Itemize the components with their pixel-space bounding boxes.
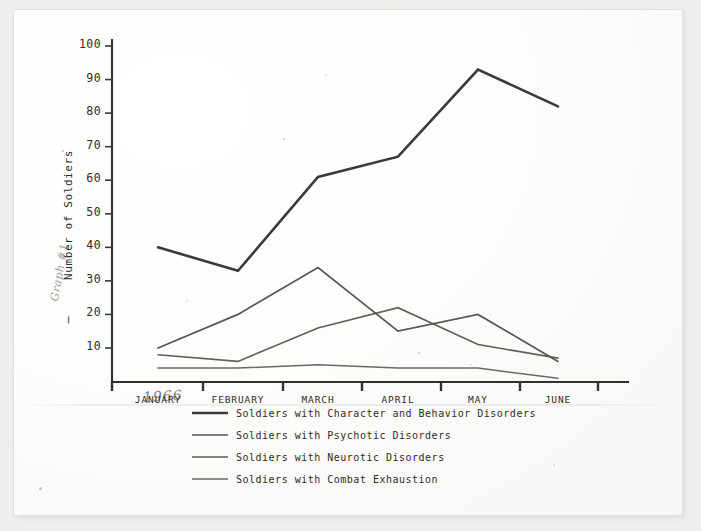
line-chart: 102030405060708090100 Number of Soldiers…	[0, 0, 701, 531]
svg-text:—: —	[61, 316, 75, 324]
svg-text:Soldiers with Character and Be: Soldiers with Character and Behavior Dis…	[236, 408, 536, 419]
chart-axes	[112, 40, 628, 382]
svg-text:Soldiers with Psychotic Disord: Soldiers with Psychotic Disorders	[236, 430, 451, 441]
svg-text:10: 10	[86, 339, 101, 353]
svg-text:70: 70	[86, 138, 101, 152]
svg-text:60: 60	[86, 171, 101, 185]
svg-text:50: 50	[86, 205, 101, 219]
x-tick-labels: JANUARYFEBRUARYMARCHAPRILMAYJUNE	[135, 394, 571, 405]
svg-text:Soldiers with Neurotic Disorde: Soldiers with Neurotic Disorders	[236, 452, 445, 463]
y-axis-title: Number of Soldiers—	[61, 150, 75, 324]
svg-text:APRIL: APRIL	[381, 394, 414, 405]
svg-text:20: 20	[86, 305, 101, 319]
svg-text:JUNE: JUNE	[545, 394, 571, 405]
x-axis-ticks	[112, 382, 598, 391]
svg-text:MARCH: MARCH	[301, 394, 334, 405]
svg-text:FEBRUARY: FEBRUARY	[212, 394, 265, 405]
svg-text:80: 80	[86, 104, 101, 118]
chart-legend: Soldiers with Character and Behavior Dis…	[192, 408, 536, 485]
svg-text:Soldiers with Combat Exhaustio: Soldiers with Combat Exhaustion	[236, 474, 438, 485]
chart-series-lines	[158, 70, 558, 379]
svg-text:Number of Soldiers: Number of Soldiers	[62, 150, 75, 280]
svg-text:30: 30	[86, 272, 101, 286]
svg-text:JANUARY: JANUARY	[135, 394, 181, 405]
svg-text:MAY: MAY	[468, 394, 488, 405]
svg-text:40: 40	[86, 238, 101, 252]
y-tick-labels: 102030405060708090100	[79, 37, 112, 353]
svg-text:100: 100	[79, 37, 101, 51]
svg-text:90: 90	[86, 71, 101, 85]
